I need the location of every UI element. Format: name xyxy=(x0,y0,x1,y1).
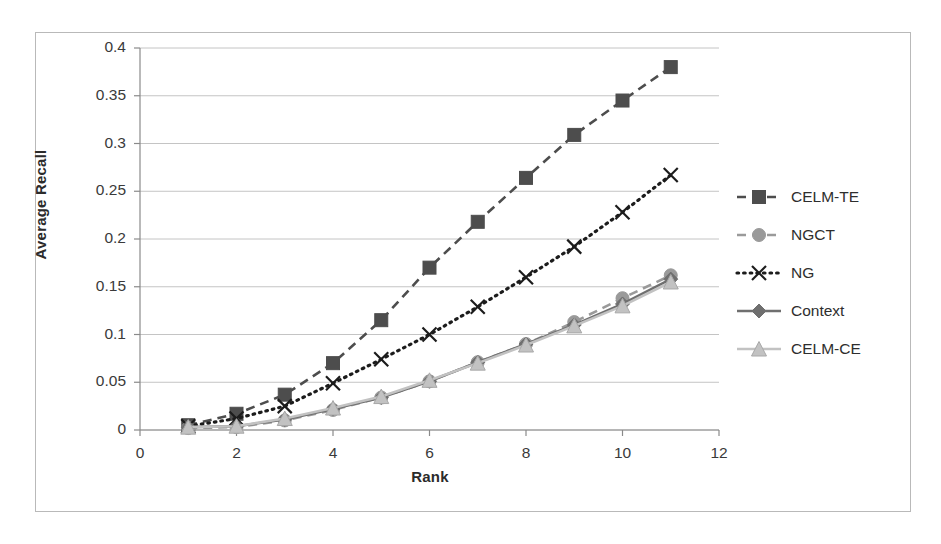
y-tick-label: 0.3 xyxy=(56,134,126,152)
y-tick-label: 0.2 xyxy=(56,229,126,247)
x-tick-label: 4 xyxy=(308,444,358,462)
x-tick-label: 10 xyxy=(598,444,648,462)
x-tick-label: 8 xyxy=(501,444,551,462)
chart-legend: CELM-TENGCTNGContextCELM-CE xyxy=(735,178,925,368)
x-tick-label: 12 xyxy=(694,444,744,462)
y-tick-label: 0.1 xyxy=(56,325,126,343)
legend-item-context[interactable]: Context xyxy=(735,292,925,330)
legend-item-celm-te[interactable]: CELM-TE xyxy=(735,178,925,216)
y-tick-label: 0.4 xyxy=(56,38,126,56)
legend-marker-circle-icon xyxy=(735,224,783,246)
legend-label: CELM-CE xyxy=(791,340,861,358)
legend-item-ngct[interactable]: NGCT xyxy=(735,216,925,254)
x-tick-label: 6 xyxy=(405,444,455,462)
legend-label: NGCT xyxy=(791,226,835,244)
y-tick-label: 0.05 xyxy=(56,372,126,390)
legend-item-ng[interactable]: NG xyxy=(735,254,925,292)
y-tick-label: 0.15 xyxy=(56,277,126,295)
legend-marker-cross-icon xyxy=(735,262,783,284)
y-axis-title: Average Recall xyxy=(32,125,49,285)
x-axis-title: Rank xyxy=(140,468,720,485)
series-celm-ce xyxy=(181,274,679,434)
chart-container: 00.050.10.150.20.250.30.350.4 024681012 … xyxy=(0,0,941,544)
x-tick-label: 0 xyxy=(115,444,165,462)
data-series xyxy=(181,61,679,435)
y-tick-label: 0.35 xyxy=(56,86,126,104)
legend-item-celm-ce[interactable]: CELM-CE xyxy=(735,330,925,368)
series-context xyxy=(181,272,678,434)
series-ng xyxy=(181,168,678,433)
legend-label: CELM-TE xyxy=(791,188,859,206)
legend-marker-square-icon xyxy=(735,186,783,208)
series-ngct xyxy=(182,269,678,435)
legend-label: NG xyxy=(791,264,814,282)
legend-label: Context xyxy=(791,302,844,320)
legend-marker-triangle-icon xyxy=(735,338,783,360)
y-tick-label: 0.25 xyxy=(56,181,126,199)
legend-marker-diamond-icon xyxy=(735,300,783,322)
y-tick-label: 0 xyxy=(56,420,126,438)
x-tick-label: 2 xyxy=(212,444,262,462)
